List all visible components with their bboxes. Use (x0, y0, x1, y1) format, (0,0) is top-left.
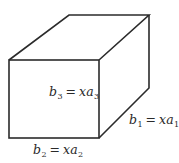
width-label: b2=xa2 (33, 144, 83, 157)
label-rhs-subscript: 3 (94, 92, 99, 101)
front-face (9, 60, 99, 138)
label-var-subscript: 3 (58, 92, 63, 101)
label-equals: = (143, 112, 159, 127)
label-rhs-subscript: 1 (174, 120, 179, 129)
top-face-edges (9, 15, 149, 60)
height-label: b3=xa3 (49, 86, 99, 99)
label-var-subscript: 1 (138, 120, 143, 129)
label-equals: = (47, 142, 63, 157)
label-rhs: xa (79, 84, 94, 99)
box-diagram: b3=xa3 b1=xa1 b2=xa2 (0, 0, 179, 163)
cuboid-drawing (0, 0, 179, 163)
label-var: b (33, 142, 41, 157)
label-var-subscript: 2 (42, 150, 47, 159)
label-var: b (49, 84, 57, 99)
label-equals: = (63, 84, 79, 99)
label-rhs: xa (159, 112, 174, 127)
label-rhs: xa (63, 142, 78, 157)
label-rhs-subscript: 2 (78, 150, 83, 159)
label-var: b (129, 112, 137, 127)
depth-label: b1=xa1 (129, 114, 179, 127)
